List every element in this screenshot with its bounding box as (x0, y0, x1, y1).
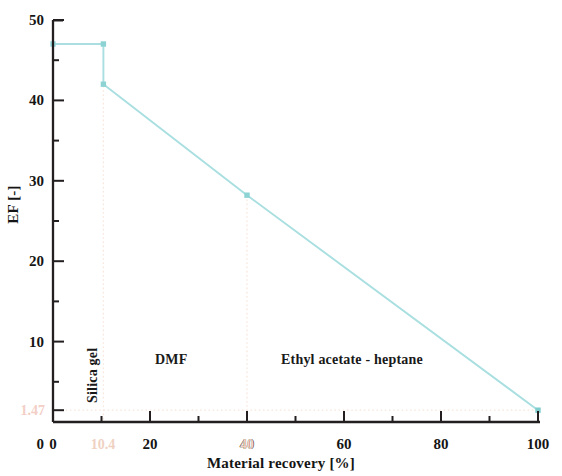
y-tick-label-10: 10 (4, 335, 44, 350)
x-tick-label-20: 20 (125, 437, 175, 452)
plot-canvas (0, 0, 562, 476)
region-label-silica-gel: Silica gel (85, 348, 101, 403)
data-point-marker (244, 193, 249, 198)
x-tick-label-10-4: 10.4 (78, 438, 128, 452)
x-tick-label-40-highlight: 40 (222, 438, 272, 452)
y-axis-title: EF [-] (5, 170, 22, 240)
x-tick-label-60: 60 (319, 437, 369, 452)
x-tick-label-80: 80 (416, 437, 466, 452)
region-label-ethyl-acetate-heptane: Ethyl acetate - heptane (281, 352, 423, 368)
chart-figure: 50 40 30 20 10 0 1.47 0 20 40 60 80 100 … (0, 0, 562, 476)
x-axis-title: Material recovery [%] (0, 455, 562, 472)
data-point-marker (101, 82, 106, 87)
y-tick-label-20: 20 (4, 254, 44, 269)
region-label-dmf: DMF (155, 352, 187, 368)
y-tick-label-40: 40 (4, 93, 44, 108)
data-point-marker (101, 41, 106, 46)
x-tick-label-0: 0 (28, 437, 78, 452)
x-tick-label-100: 100 (513, 437, 562, 452)
y-tick-label-50: 50 (4, 13, 44, 28)
y-tick-label-1-47: 1.47 (0, 404, 45, 418)
